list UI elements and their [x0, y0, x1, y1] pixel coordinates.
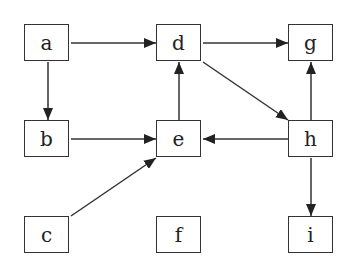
- node-c: c: [24, 216, 69, 253]
- node-f: f: [156, 216, 201, 253]
- node-i: i: [288, 216, 333, 253]
- edge-c-e: [71, 158, 156, 216]
- node-e: e: [156, 120, 201, 157]
- node-g: g: [288, 24, 333, 61]
- edge-d-h: [203, 62, 288, 120]
- node-d: d: [156, 24, 201, 61]
- node-a: a: [24, 24, 69, 61]
- node-b: b: [24, 120, 69, 157]
- node-h: h: [288, 120, 333, 157]
